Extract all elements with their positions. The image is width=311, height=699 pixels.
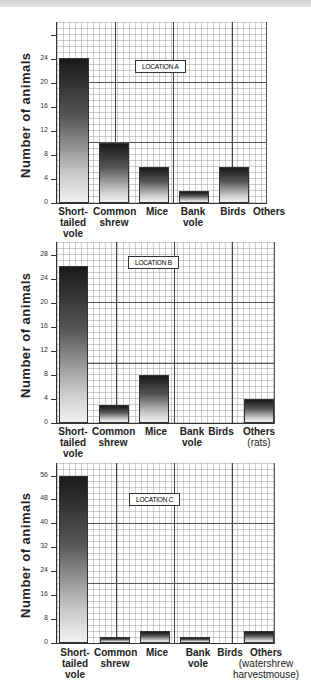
y-tick: 0	[34, 638, 48, 645]
y-tick: 24	[34, 566, 48, 573]
y-tick: 16	[34, 590, 48, 597]
x-label: Commonshrew	[94, 647, 136, 669]
y-tick: 8	[34, 614, 48, 621]
y-tick: 40	[34, 518, 48, 525]
bar-mice	[140, 631, 170, 643]
y-axis-label: Number of animals	[18, 492, 33, 618]
tick	[51, 547, 56, 548]
bar-bank-vole	[180, 637, 210, 643]
grid-major-v	[174, 463, 175, 643]
tick	[51, 643, 56, 644]
tick	[51, 499, 56, 500]
x-label: Short-tailedvole	[58, 647, 92, 680]
tick	[51, 523, 56, 524]
grid-major-v	[116, 463, 117, 643]
tick	[51, 595, 56, 596]
location-label: LOCATION C	[129, 493, 180, 506]
tick	[51, 619, 56, 620]
bar-others	[244, 631, 274, 643]
tick	[51, 571, 56, 572]
x-label: Others(watershrewharvestmouse)	[232, 647, 300, 680]
bar-common-shrew	[100, 637, 130, 643]
grid-major-h	[87, 523, 274, 524]
bar-short-tailed-vole	[59, 476, 88, 643]
x-label: Bankvole	[183, 647, 213, 669]
y-tick: 48	[34, 494, 48, 501]
y-tick: 32	[34, 542, 48, 549]
x-label: Mice	[142, 647, 172, 658]
y-tick: 56	[34, 471, 48, 478]
grid-major-v	[232, 463, 233, 643]
plot-area: LOCATION C	[56, 463, 275, 644]
grid-major-h	[87, 583, 274, 584]
chart-location-c: Number of animals LOCATION C 0 8 16 24 3…	[0, 0, 311, 699]
tick	[51, 476, 56, 477]
